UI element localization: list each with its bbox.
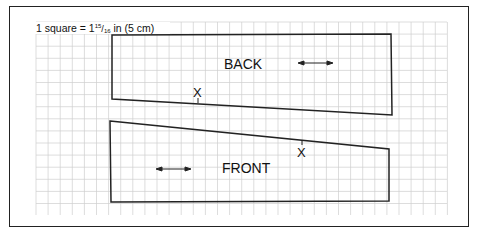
notch-x-front: X [297,145,306,160]
pattern-piece-front: FRONT X [110,121,389,202]
piece-label-back: BACK [224,56,263,72]
pattern-diagram: 1 square = 115/16 in (5 cm) BACK X FRONT… [0,0,477,237]
notch-x-back: X [193,85,202,100]
grid [36,22,447,215]
grain-arrow-icon [156,167,191,171]
piece-label-front: FRONT [222,160,271,176]
grain-arrow-icon [298,61,333,65]
